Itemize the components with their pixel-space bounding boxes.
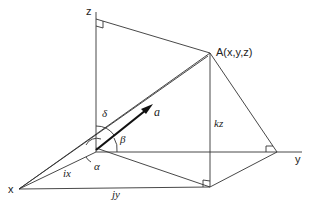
vector-a-label: a bbox=[154, 106, 160, 118]
x-axis-label: x bbox=[8, 184, 14, 195]
delta-angle-label: δ bbox=[102, 108, 107, 119]
jy-label: jy bbox=[112, 189, 120, 200]
y-axis-label: y bbox=[295, 154, 301, 165]
point-a-label: A(x,y,z) bbox=[216, 47, 252, 58]
beta-angle-label: β bbox=[120, 134, 125, 145]
x-axis bbox=[19, 152, 96, 189]
alpha-angle-label: α bbox=[94, 161, 100, 172]
z-axis-label: z bbox=[86, 6, 92, 17]
kz-label: kz bbox=[214, 118, 223, 129]
ix-label: ix bbox=[63, 168, 71, 179]
